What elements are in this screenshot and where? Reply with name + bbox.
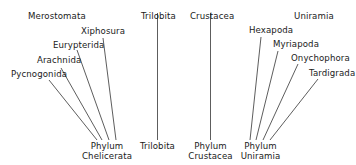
- taxon-pycnogonida: Pycnogonida: [11, 69, 67, 79]
- phylum-trilobita-line1: Trilobita: [135, 141, 180, 151]
- line-myriapoda: [256, 51, 278, 140]
- taxon-onychophora: Onychophora: [291, 53, 350, 63]
- taxon-myriapoda: Myriapoda: [273, 39, 319, 49]
- taxon-hexapoda: Hexapoda: [249, 25, 293, 35]
- taxon-eurypterida: Eurypterida: [53, 40, 104, 50]
- title-crustacea: Crustacea: [190, 11, 234, 21]
- phylum-crustacea: Phylum Crustacea: [187, 141, 234, 161]
- phylum-trilobita: Trilobita: [135, 141, 180, 151]
- taxon-arachnida: Arachnida: [37, 55, 81, 65]
- phylum-uniramia: Phylum Uniramia: [238, 141, 283, 161]
- phylum-chelicerata-line2: Chelicerata: [82, 151, 132, 161]
- phylum-chelicerata: Phylum Chelicerata: [82, 141, 132, 161]
- title-merostomata: Merostomata: [28, 11, 86, 21]
- phylum-crustacea-line2: Crustacea: [187, 151, 234, 161]
- title-trilobita: Trilobita: [141, 11, 176, 21]
- phylum-uniramia-line2: Uniramia: [238, 151, 283, 161]
- title-uniramia: Uniramia: [294, 11, 334, 21]
- taxon-xiphosura: Xiphosura: [81, 26, 125, 36]
- line-onychophora: [263, 64, 298, 140]
- line-hexapoda: [250, 37, 261, 140]
- phylum-chelicerata-line1: Phylum: [82, 141, 132, 151]
- phylum-uniramia-line1: Phylum: [238, 141, 283, 151]
- line-eurypterida: [77, 50, 109, 140]
- phylum-crustacea-line1: Phylum: [187, 141, 234, 151]
- taxon-tardigrada: Tardigrada: [309, 68, 355, 78]
- line-xiphosura: [103, 38, 116, 140]
